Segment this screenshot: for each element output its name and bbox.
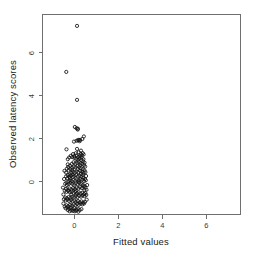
y-axis-title: Observed latency scores xyxy=(7,60,18,168)
y-tick-label: 2 xyxy=(28,137,37,141)
x-axis-ticks: 0246 xyxy=(72,215,208,230)
y-axis-ticks: 0246 xyxy=(28,51,43,184)
x-tick-label: 4 xyxy=(160,221,164,230)
x-tick-label: 6 xyxy=(204,221,208,230)
data-point xyxy=(62,177,65,180)
y-tick-label: 0 xyxy=(28,180,37,184)
data-point xyxy=(62,193,65,196)
x-tick-label: 2 xyxy=(116,221,120,230)
data-point xyxy=(61,186,64,189)
x-tick-label: 0 xyxy=(72,221,76,230)
plot-canvas: 0246 0246 Fitted values Observed latency… xyxy=(0,0,266,254)
data-point xyxy=(75,24,78,27)
scatter-plot-figure: 0246 0246 Fitted values Observed latency… xyxy=(0,0,266,254)
x-axis-title: Fitted values xyxy=(113,236,169,247)
data-point xyxy=(65,148,68,151)
data-point xyxy=(62,202,65,205)
data-point xyxy=(75,147,78,150)
data-point xyxy=(84,174,87,177)
data-point xyxy=(85,198,88,201)
y-tick-label: 6 xyxy=(28,51,37,55)
data-point xyxy=(75,98,78,101)
data-points-group xyxy=(61,24,88,213)
y-tick-label: 4 xyxy=(28,94,37,98)
data-point xyxy=(65,70,68,73)
